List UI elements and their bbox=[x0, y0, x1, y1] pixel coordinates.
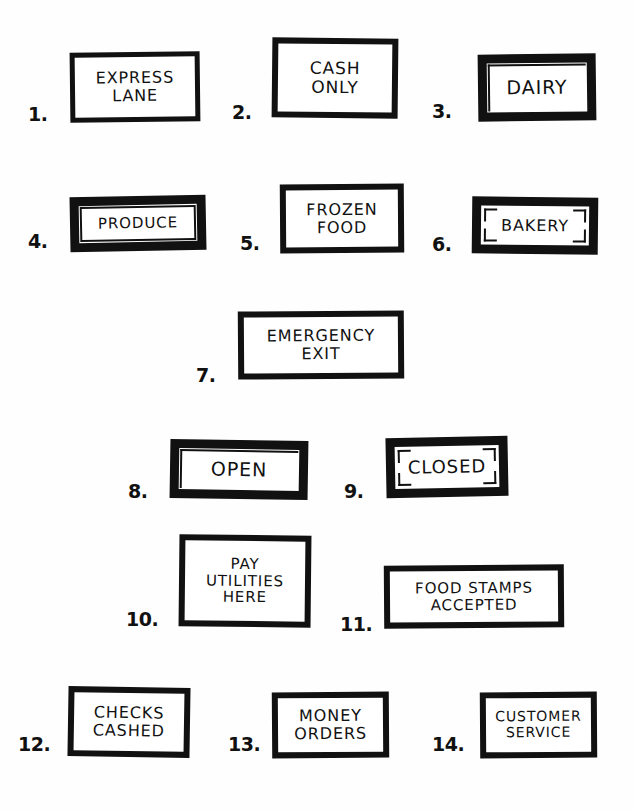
sign-number-5: 5. bbox=[240, 234, 259, 253]
sign-text-7: EMERGENCY EXIT bbox=[267, 327, 376, 364]
sign-plate-emergency-exit[interactable]: EMERGENCY EXIT bbox=[238, 310, 404, 379]
sign-text-1: EXPRESS LANE bbox=[96, 69, 175, 106]
sign-number-9: 9. bbox=[344, 482, 363, 501]
sign-plate-cash-only[interactable]: CASH ONLY bbox=[272, 37, 399, 118]
sign-number-2: 2. bbox=[232, 103, 251, 122]
sign-text-6: BAKERY bbox=[501, 216, 569, 235]
sign-number-7: 7. bbox=[196, 366, 215, 385]
sign-plate-express-lane[interactable]: EXPRESS LANE bbox=[70, 51, 201, 123]
sign-number-14: 14. bbox=[432, 735, 464, 754]
sign-text-3: DAIRY bbox=[506, 76, 567, 98]
sign-plate-produce[interactable]: PRODUCE bbox=[69, 195, 206, 253]
sign-plate-dairy[interactable]: DAIRY bbox=[478, 53, 597, 121]
sign-plate-pay-utilities-here[interactable]: PAY UTILITIES HERE bbox=[179, 534, 312, 627]
sign-text-14: CUSTOMER SERVICE bbox=[495, 709, 582, 741]
sign-number-10: 10. bbox=[126, 610, 158, 629]
corner-bracket-icon bbox=[484, 208, 497, 221]
sign-text-8: OPEN bbox=[211, 458, 268, 480]
sign-text-2: CASH ONLY bbox=[309, 59, 360, 98]
sign-plate-food-stamps-accepted[interactable]: FOOD STAMPS ACCEPTED bbox=[384, 564, 564, 628]
sign-text-9: CLOSED bbox=[408, 456, 487, 478]
corner-bracket-icon bbox=[573, 209, 586, 222]
sign-plate-customer-service[interactable]: CUSTOMER SERVICE bbox=[480, 692, 597, 759]
sign-number-1: 1. bbox=[28, 105, 47, 124]
sign-text-13: MONEY ORDERS bbox=[294, 707, 367, 743]
corner-bracket-icon bbox=[484, 228, 497, 241]
sign-plate-checks-cashed[interactable]: CHECKS CASHED bbox=[67, 686, 190, 758]
sign-plate-open[interactable]: OPEN bbox=[170, 439, 309, 500]
sign-plate-bakery[interactable]: BAKERY bbox=[472, 196, 599, 254]
sign-number-8: 8. bbox=[128, 482, 147, 501]
sign-number-11: 11. bbox=[340, 615, 372, 634]
sign-text-11: FOOD STAMPS ACCEPTED bbox=[415, 579, 533, 613]
sign-text-5: FROZEN FOOD bbox=[306, 200, 378, 236]
sign-text-10: PAY UTILITIES HERE bbox=[206, 555, 285, 606]
signs-sheet: 1. EXPRESS LANE 2. CASH ONLY 3. DAIRY 4.… bbox=[0, 0, 634, 811]
sign-number-6: 6. bbox=[432, 235, 451, 254]
sign-number-12: 12. bbox=[18, 735, 50, 754]
sign-plate-closed[interactable]: CLOSED bbox=[385, 436, 508, 498]
corner-bracket-icon bbox=[573, 229, 586, 242]
sign-text-12: CHECKS CASHED bbox=[93, 704, 166, 741]
sign-number-13: 13. bbox=[228, 735, 260, 754]
sign-number-4: 4. bbox=[28, 232, 47, 251]
sign-plate-frozen-food[interactable]: FROZEN FOOD bbox=[280, 184, 404, 254]
sign-number-3: 3. bbox=[432, 102, 451, 121]
sign-plate-money-orders[interactable]: MONEY ORDERS bbox=[272, 692, 389, 759]
sign-text-4: PRODUCE bbox=[98, 214, 178, 232]
